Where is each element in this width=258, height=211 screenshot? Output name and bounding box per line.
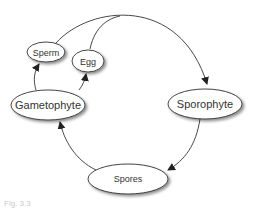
node-label: Gametophyte — [15, 99, 81, 111]
node-label: Spores — [114, 174, 143, 184]
edge-sporophyte-to-spores — [168, 119, 200, 170]
edge-gametophyte-to-sperm — [34, 64, 39, 90]
node-sporophyte: Sporophyte — [168, 89, 242, 119]
node-label: Egg — [80, 57, 96, 67]
edge-gametophyte-to-egg — [79, 74, 86, 90]
edge-egg-to-sporophyte — [90, 16, 120, 49]
node-gametophyte: Gametophyte — [11, 90, 85, 120]
life-cycle-diagram: Sperm Egg Gametophyte Sporophyte Spores — [0, 0, 258, 211]
edge-sperm-to-sporophyte — [56, 15, 207, 84]
node-spores: Spores — [88, 164, 168, 194]
figure-caption: Fig. 3.3 — [4, 199, 31, 208]
node-label: Sporophyte — [177, 98, 233, 110]
node-sperm: Sperm — [27, 42, 65, 62]
node-label: Sperm — [33, 48, 60, 58]
edge-spores-to-gametophyte — [60, 122, 96, 170]
node-egg: Egg — [72, 50, 104, 72]
